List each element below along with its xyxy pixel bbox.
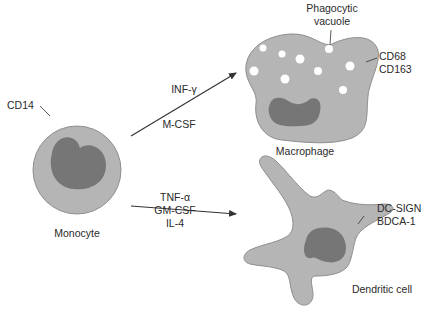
factor-m-csf: M-CSF	[162, 118, 195, 130]
vacuole	[296, 55, 305, 64]
cd68-label: CD68	[379, 50, 406, 62]
macrophage	[246, 34, 379, 143]
vacuole	[339, 86, 347, 94]
factor-gm-csf: GM-CSF	[154, 204, 195, 216]
vacuole	[250, 67, 259, 76]
vacuole	[314, 67, 322, 75]
factor-tnf-alpha: TNF-α	[160, 191, 190, 203]
vacuole	[281, 75, 290, 84]
vacuole-leader-line	[330, 30, 331, 45]
dc-sign-label: DC-SIGN	[377, 202, 421, 214]
phagocytic-vacuole-label-line2: vacuole	[314, 15, 350, 27]
macrophage-cytoplasm	[246, 34, 379, 143]
vacuole	[260, 45, 267, 52]
vacuole	[325, 45, 333, 53]
factor-inf-gamma: INF-γ	[171, 83, 197, 95]
vacuole	[279, 51, 286, 58]
differentiation-diagram: CD14 Monocyte INF-γ M-CSF TNF-α GM-CSF I…	[0, 0, 425, 314]
monocyte	[33, 126, 121, 214]
phagocytic-vacuole-label-line1: Phagocytic	[306, 2, 357, 14]
cd14-label: CD14	[7, 99, 34, 111]
cd163-label: CD163	[379, 63, 412, 75]
monocyte-label: Monocyte	[54, 227, 100, 239]
factor-il-4: IL-4	[166, 217, 184, 229]
bdca-1-label: BDCA-1	[377, 215, 416, 227]
dendritic-cell-label: Dendritic cell	[352, 283, 412, 295]
cd14-leader-line	[40, 106, 50, 116]
vacuole	[346, 62, 355, 71]
macrophage-label: Macrophage	[276, 145, 335, 157]
